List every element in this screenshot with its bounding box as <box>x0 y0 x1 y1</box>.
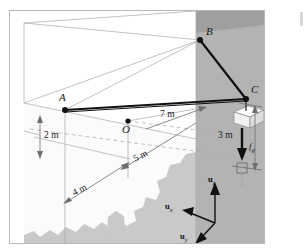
point-label-A: A <box>59 91 66 103</box>
point-label-C: C <box>251 83 258 95</box>
axis-label-uz: uz <box>208 174 215 186</box>
point-label-O: O <box>122 123 130 135</box>
force-label-fg: fg <box>249 141 255 153</box>
wall-shade-right <box>196 11 264 243</box>
dimension-7m: 7 m <box>160 109 175 119</box>
axis-label-ux: ux <box>165 201 173 213</box>
page-edge-artifact <box>300 12 303 26</box>
diagram-stage: A B C O 2 m 4 m 5 m 7 m 3 m fg uz ux uy <box>9 10 265 244</box>
diagram-svg <box>10 11 264 243</box>
axis-label-uy: uy <box>180 231 188 243</box>
point-label-B: B <box>206 25 213 37</box>
node-A <box>62 107 68 113</box>
node-B <box>197 37 203 43</box>
dimension-3m: 3 m <box>218 130 233 140</box>
dimension-2m: 2 m <box>44 130 59 140</box>
figure-container: A B C O 2 m 4 m 5 m 7 m 3 m fg uz ux uy <box>0 0 305 252</box>
